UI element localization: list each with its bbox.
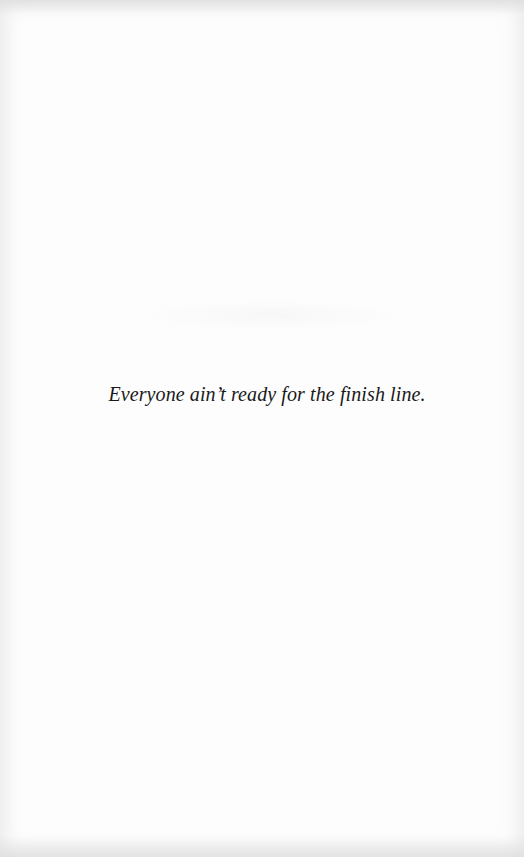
scan-bleed-through	[140, 300, 400, 330]
epigraph-text: Everyone ain’t ready for the finish line…	[0, 383, 524, 406]
book-page: Everyone ain’t ready for the finish line…	[0, 0, 524, 857]
